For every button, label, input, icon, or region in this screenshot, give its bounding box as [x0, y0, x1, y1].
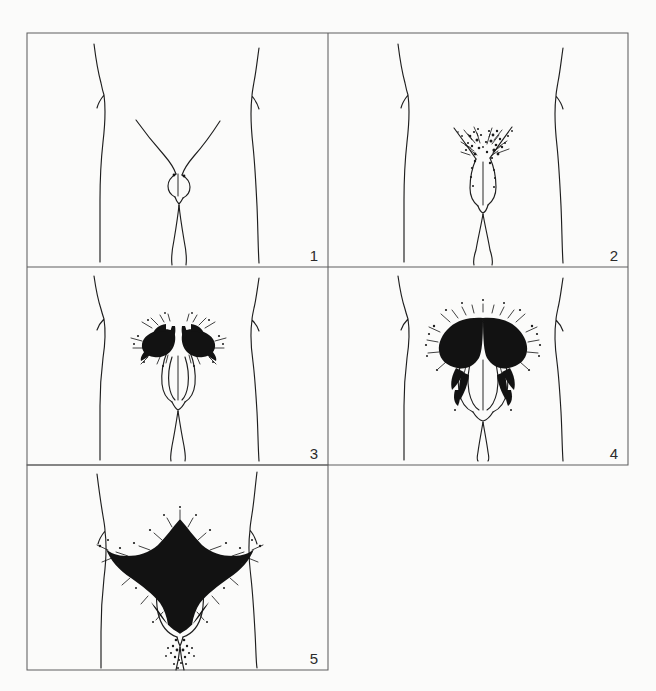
panel-1-mark-left	[173, 174, 176, 177]
panel-1-mark-right	[183, 175, 186, 178]
panel-3-number: 3	[310, 445, 318, 462]
panel-1-number: 1	[310, 247, 318, 264]
panel-5-number: 5	[310, 650, 318, 667]
panel-2-number: 2	[610, 247, 618, 264]
figure-plate: 1	[0, 0, 656, 691]
tanner-stage-illustration: 1	[0, 0, 656, 691]
panel-4-number: 4	[610, 445, 618, 462]
